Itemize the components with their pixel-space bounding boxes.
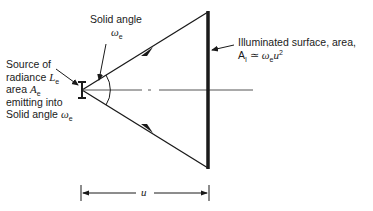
solid-angle-label: Solid angle [90, 13, 142, 26]
solid-angle-symbol: ωe [111, 26, 123, 39]
lower-ray [82, 90, 208, 168]
dimension-arrow-right-icon [201, 191, 208, 196]
ray-arrow-icon [141, 124, 153, 133]
ray-arrow-icon [141, 47, 153, 56]
surface-label: Illuminated surface, area, AI ≃ ωeu2 [238, 36, 356, 61]
distance-label: u [141, 186, 147, 199]
surface-pointer [212, 45, 234, 50]
dimension-arrow-left-icon [82, 191, 89, 196]
source-label: Source of radiance Le area Ae emitting i… [6, 58, 73, 121]
solid-angle-pointer [99, 44, 106, 80]
